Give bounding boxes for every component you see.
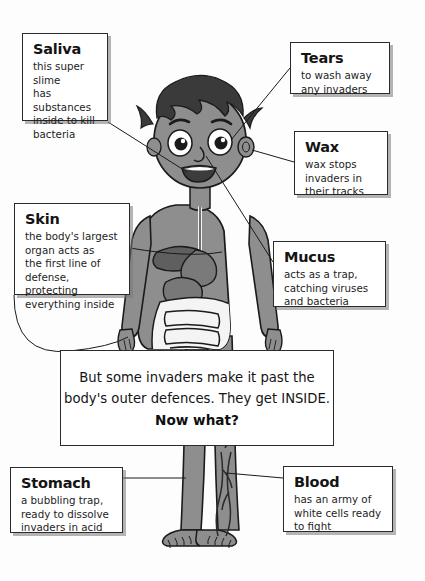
center-message-line-2: body's outer defences. They get INSIDE. <box>64 389 330 409</box>
center-message-line-1: But some invaders make it past the <box>79 368 315 388</box>
callout-wax[interactable]: Wax wax stops invaders in their tracks <box>294 131 388 195</box>
callout-title: Blood <box>294 474 383 491</box>
callout-body: this super slime has substances inside t… <box>33 60 98 141</box>
center-message-question: Now what? <box>155 412 239 428</box>
callout-body: has an army of white cells ready to figh… <box>294 493 383 534</box>
callout-body: to wash away any invaders <box>301 69 380 96</box>
center-message-box: But some invaders make it past the body'… <box>60 350 334 446</box>
callout-title: Stomach <box>21 475 113 492</box>
callout-body: the body's largest organ acts as the fir… <box>25 230 120 311</box>
callout-body: a bubbling trap, ready to dissolve invad… <box>21 494 113 535</box>
callout-skin[interactable]: Skin the body's largest organ acts as th… <box>14 203 130 295</box>
callout-title: Mucus <box>284 249 376 266</box>
callout-title: Wax <box>305 139 378 156</box>
callout-title: Tears <box>301 50 380 67</box>
callout-title: Saliva <box>33 41 98 58</box>
callout-tears[interactable]: Tears to wash away any invaders <box>290 42 390 94</box>
callout-blood[interactable]: Blood has an army of white cells ready t… <box>283 466 393 532</box>
callout-mucus[interactable]: Mucus acts as a trap, catching viruses a… <box>273 241 386 307</box>
callout-saliva[interactable]: Saliva this super slime has substances i… <box>22 33 108 121</box>
callout-stomach[interactable]: Stomach a bubbling trap, ready to dissol… <box>10 467 123 533</box>
head <box>137 75 262 188</box>
callout-body: acts as a trap, catching viruses and bac… <box>284 268 376 309</box>
diagram-canvas: Saliva this super slime has substances i… <box>0 0 425 581</box>
callout-title: Skin <box>25 211 120 228</box>
callout-body: wax stops invaders in their tracks <box>305 158 378 199</box>
